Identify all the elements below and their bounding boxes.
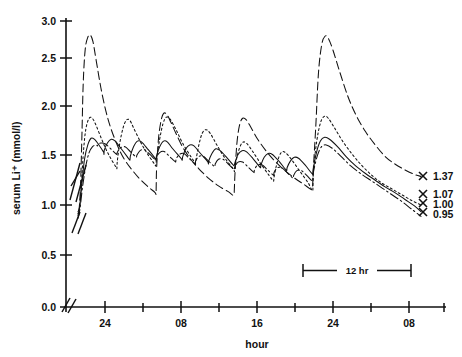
x-tick-label-1: 08 [175, 317, 187, 329]
data-curves [78, 35, 421, 218]
y-tick-label-2: 2.0 [41, 100, 56, 112]
curve-twice-daily-600mg [78, 116, 421, 214]
endpoint-marker-100 [419, 199, 427, 207]
scale-bar-label: 12 hr [346, 265, 369, 276]
axis-break-origin [62, 298, 76, 313]
endpoint-marker-095 [419, 208, 427, 216]
y-tick-label-15: 1.5 [41, 149, 56, 161]
x-tick-label-3: 24 [327, 317, 339, 329]
y-tick-label-3: 3.0 [41, 15, 56, 27]
y-tick-label-05: 0.5 [41, 249, 56, 261]
x-tick-labels: 24 08 16 24 08 [99, 317, 415, 329]
serum-lithium-chart: 3.0 2.5 2.0 1.5 1.0 0.5 0.0 serum Li⁺ (m… [0, 0, 462, 357]
y-tick-label-25: 2.5 [41, 52, 56, 64]
x-tick-label-2: 16 [251, 317, 263, 329]
y-tick-label-1: 1.0 [41, 199, 56, 211]
x-tick-label-0: 24 [99, 317, 111, 329]
chart-root: 3.0 2.5 2.0 1.5 1.0 0.5 0.0 serum Li⁺ (m… [0, 0, 462, 357]
endpoint-label-095: 0.95 [433, 208, 454, 220]
y-tick-labels: 3.0 2.5 2.0 1.5 1.0 0.5 0.0 [41, 15, 56, 313]
curve-once-daily-1200mg [78, 35, 421, 212]
endpoint-marker-107 [419, 190, 427, 198]
y-axis-break-marks [70, 163, 86, 234]
curve-three-times-daily-400mg [78, 137, 421, 215]
endpoint-label-137: 1.37 [433, 170, 454, 182]
x-tick-label-4: 08 [403, 317, 415, 329]
y-axis-title: serum Li⁺ (mmol/l) [10, 121, 22, 215]
y-tick-label-0: 0.0 [41, 301, 56, 313]
x-axis-title: hour [245, 338, 268, 350]
endpoint-markers: 1.37 1.07 1.00 0.95 [419, 170, 454, 220]
